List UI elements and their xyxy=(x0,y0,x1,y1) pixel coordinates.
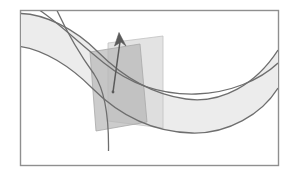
geometry-diagram: Normal vector and normal plane on a curv… xyxy=(0,0,296,173)
surface-tangency-point xyxy=(112,91,115,94)
figure-container: Normal vector and normal plane on a curv… xyxy=(0,0,296,173)
